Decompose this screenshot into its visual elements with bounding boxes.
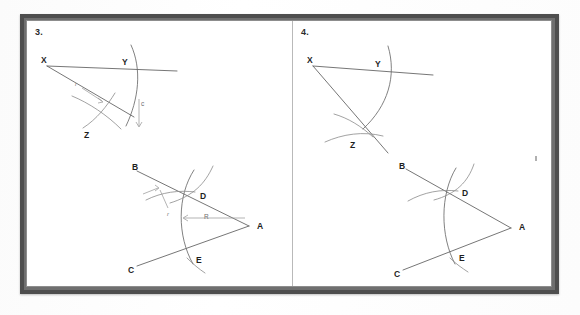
radius-label-r-3-fig2: r <box>167 211 169 217</box>
figure-abc-drawing-3 <box>27 146 292 286</box>
point-label-e-3: E <box>196 256 202 265</box>
point-label-b-3: B <box>132 163 138 172</box>
worksheet-page: 3. X Y Z r <box>0 0 580 315</box>
point-label-z-3: Z <box>84 131 89 140</box>
point-label-d-4: D <box>462 189 468 198</box>
point-label-c-4: C <box>394 270 400 279</box>
problem-panel-3: 3. X Y Z r <box>27 21 292 286</box>
point-label-x-3: X <box>41 56 47 65</box>
worksheet-sheet: 3. X Y Z r <box>27 21 551 286</box>
dimension-label-R-3: R <box>204 214 209 221</box>
point-label-y-3: Y <box>122 58 128 67</box>
radius-label-r-3-fig1: r <box>75 81 77 87</box>
point-label-a-3: A <box>257 222 263 231</box>
point-label-d-3: D <box>200 192 206 201</box>
point-label-x-4: X <box>307 56 313 65</box>
point-label-a-4: A <box>519 223 525 232</box>
point-label-y-4: Y <box>375 60 381 69</box>
page-edge-mark <box>535 156 537 161</box>
figure-abc-drawing-4 <box>293 146 551 286</box>
figure-xyz-drawing-4 <box>293 21 551 161</box>
point-label-c-3: C <box>128 266 134 275</box>
dimension-label-c-3: c <box>141 101 144 108</box>
figure-xyz-drawing-3 <box>27 21 292 161</box>
point-label-b-4: B <box>399 162 405 171</box>
problem-panel-4: 4. X Y Z <box>293 21 551 286</box>
point-label-e-4: E <box>459 254 465 263</box>
